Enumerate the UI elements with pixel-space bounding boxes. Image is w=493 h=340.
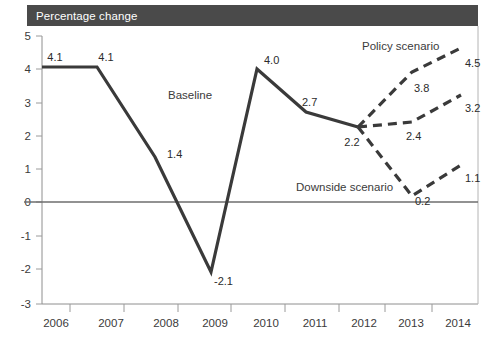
point-label-2011: 2.7 [302, 96, 317, 108]
x-tick-2012: 2012 [351, 317, 377, 329]
annotation-downside-scenario: Downside scenario [296, 181, 393, 193]
x-tick-2014: 2014 [445, 317, 471, 329]
x-tick-2011: 2011 [303, 317, 328, 329]
annotation-baseline: Baseline [168, 89, 212, 101]
y-tick-marks [36, 36, 42, 304]
x-tick-2008: 2008 [153, 317, 179, 329]
point-label-2006: 4.1 [47, 51, 62, 63]
x-tick-2010: 2010 [253, 317, 279, 329]
x-tick-2009: 2009 [202, 317, 228, 329]
y-tick-minus1: -1 [21, 230, 31, 242]
point-label-2009: -2.1 [214, 275, 233, 287]
series-policy-scenario-line [358, 48, 461, 127]
point-label-policy-2013: 3.8 [414, 82, 429, 94]
point-label-downside-2014: 1.1 [465, 172, 480, 184]
point-label-baseline-2013: 2.4 [406, 130, 421, 142]
point-label-2007: 4.1 [98, 51, 113, 63]
y-tick-minus3: -3 [21, 298, 31, 310]
point-label-baseline-2014: 3.2 [465, 102, 480, 114]
x-tick-2007: 2007 [98, 317, 124, 329]
annotation-policy-scenario: Policy scenario [362, 40, 439, 52]
chart-plot-area: 5 4 3 2 1 0 -1 -2 -3 2006 2007 2008 2009… [0, 0, 493, 340]
point-label-2012: 2.2 [344, 136, 359, 148]
chart-figure: Percentage change 5 4 3 2 1 0 -1 -2 -3 [0, 0, 493, 340]
point-label-2008: 1.4 [167, 148, 182, 160]
point-label-downside-2013: 0.2 [415, 195, 430, 207]
point-label-2010: 4.0 [264, 54, 279, 66]
y-tick-1: 1 [25, 163, 31, 175]
y-tick-3: 3 [25, 97, 31, 109]
point-label-policy-2014: 4.5 [465, 57, 480, 69]
y-tick-5: 5 [25, 30, 31, 42]
x-tick-marks [70, 304, 432, 312]
y-tick-4: 4 [25, 63, 32, 75]
x-tick-2006: 2006 [43, 317, 69, 329]
y-tick-minus2: -2 [21, 263, 31, 275]
x-tick-2013: 2013 [398, 317, 424, 329]
y-tick-2: 2 [25, 130, 31, 142]
